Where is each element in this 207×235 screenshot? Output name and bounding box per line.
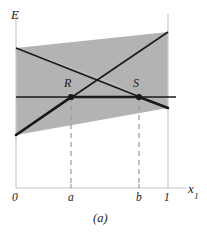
x-axis-label-subscript: 1 (194, 191, 198, 201)
figure-container: E x1 0 a b 1 R S (a) (0, 0, 207, 235)
point-marker-S (136, 94, 142, 100)
y-axis-label: E (11, 8, 19, 21)
point-label-R: R (64, 77, 71, 89)
plot-canvas (0, 0, 207, 235)
point-marker-R (68, 94, 74, 100)
figure-caption: (a) (93, 212, 108, 225)
x-tick-label-1: 1 (164, 192, 170, 204)
x-axis-label: x1 (188, 182, 198, 198)
point-label-S: S (133, 77, 139, 89)
x-tick-label-b: b (136, 192, 142, 204)
x-tick-label-a: a (68, 192, 74, 204)
x-tick-label-0: 0 (12, 192, 18, 204)
x-axis-label-base: x (188, 181, 194, 196)
